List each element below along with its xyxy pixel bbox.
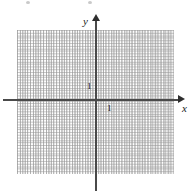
x-axis-line (3, 99, 181, 101)
y-axis-label: y (83, 16, 88, 27)
scan-artifact-speck (26, 1, 30, 4)
y-axis-unit-tick-label: 1 (87, 82, 92, 91)
x-axis-label: x (182, 103, 187, 114)
y-axis-line (95, 18, 97, 191)
x-axis-unit-tick-label: 1 (107, 104, 112, 113)
scan-artifact-speck (88, 1, 92, 4)
coordinate-plane-figure: y x 1 1 (0, 0, 191, 191)
y-axis-arrow-icon (92, 14, 100, 21)
